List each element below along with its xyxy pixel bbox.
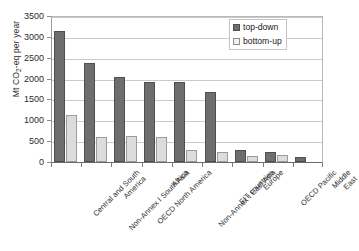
- x-tick-mark: [172, 163, 173, 167]
- gridline: [52, 17, 322, 18]
- x-tick-mark: [51, 163, 52, 167]
- x-tick-mark: [202, 163, 203, 167]
- legend-item-top-down: top-down: [233, 22, 282, 32]
- legend-label-top-down: top-down: [243, 22, 278, 32]
- x-tick-mark: [142, 163, 143, 167]
- y-tick-label: 2000: [24, 74, 44, 84]
- x-tick-mark: [81, 163, 82, 167]
- legend-swatch-top-down-icon: [233, 24, 240, 31]
- x-tick-mark: [322, 163, 323, 167]
- y-axis-ticks: 3500300025002000150010005000: [0, 16, 51, 163]
- gridline: [52, 121, 322, 122]
- y-tick-label: 0: [39, 157, 44, 167]
- y-tick-label: 3000: [24, 32, 44, 42]
- x-tick-mark: [293, 163, 294, 167]
- x-tick-mark: [263, 163, 264, 167]
- x-tick-mark: [232, 163, 233, 167]
- legend-label-bottom-up: bottom-up: [243, 36, 282, 46]
- y-tick-label: 1500: [24, 94, 44, 104]
- legend-swatch-bottom-up-icon: [233, 38, 240, 45]
- y-tick-label: 2500: [24, 53, 44, 63]
- x-axis-labels: Central and South AmericaNon-Annex I Sou…: [0, 168, 346, 251]
- y-tick-label: 1000: [24, 115, 44, 125]
- legend-item-bottom-up: bottom-up: [233, 36, 282, 46]
- gridline: [52, 80, 322, 81]
- x-tick-mark: [111, 163, 112, 167]
- legend: top-down bottom-up: [229, 19, 287, 50]
- y-tick-label: 3500: [24, 11, 44, 21]
- gridline: [52, 59, 322, 60]
- y-tick-label: 500: [29, 136, 44, 146]
- gridline: [52, 142, 322, 143]
- gridline: [52, 100, 322, 101]
